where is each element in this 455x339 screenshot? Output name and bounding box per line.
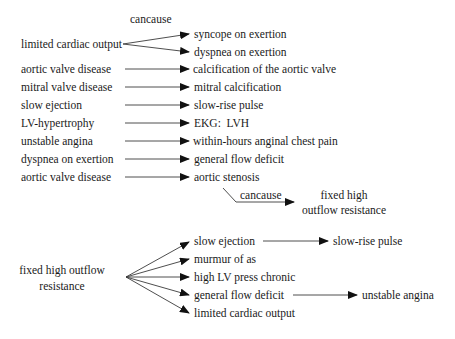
node-source-row-7: aortic valve disease: [21, 171, 111, 184]
node-fan-target-5: limited cardiac output: [194, 307, 295, 320]
node-target-row-2: mitral calcification: [194, 81, 281, 94]
node-fan-target-2: murmur of as: [194, 253, 256, 266]
node-target-row-3: slow-rise pulse: [194, 99, 263, 112]
node-syncope-on-exertion: syncope on exertion: [194, 28, 287, 41]
node-fixed-high-line2: outflow resistance: [302, 204, 386, 217]
node-source-row-5: unstable angina: [21, 135, 93, 148]
node-source-row-2: mitral valve disease: [21, 81, 112, 94]
node-fixed-high-line1: fixed high: [321, 189, 368, 202]
node-source-row-4: LV-hypertrophy: [21, 117, 94, 130]
node-source-row-3: slow ejection: [21, 99, 82, 112]
arrow-fan-4: [126, 277, 189, 295]
node-dyspnea-on-exertion: dyspnea on exertion: [194, 46, 287, 59]
arrow-fork-dyspnea: [123, 44, 189, 52]
node-target-row-5: within-hours anginal chest pain: [193, 135, 338, 148]
edge-label-cancause: cancause: [130, 13, 172, 26]
node-target-row-1: calcification of the aortic valve: [193, 63, 336, 76]
node-source-row-1: aortic valve disease: [21, 63, 111, 76]
node-fan-target-3: high LV press chronic: [194, 271, 295, 284]
node-chain-slow-rise-pulse: slow-rise pulse: [333, 235, 402, 248]
arrow-fan-5: [126, 277, 189, 313]
arrow-fork-syncope: [123, 34, 189, 44]
node-fan-source-line1: fixed high outflow: [19, 264, 105, 277]
node-aortic-stenosis: aortic stenosis: [194, 171, 259, 184]
node-target-row-4: EKG: LVH: [194, 117, 249, 130]
node-fan-target-4: general flow deficit: [194, 289, 284, 302]
node-fan-target-1: slow ejection: [194, 235, 255, 248]
node-fan-source-line2: resistance: [39, 280, 84, 293]
causal-diagram: cancause limited cardiac output syncope …: [0, 0, 455, 339]
edge-label-cancause-stenosis: cancause: [240, 189, 282, 202]
node-chain-unstable-angina: unstable angina: [362, 289, 434, 302]
node-source-row-6: dyspnea on exertion: [21, 153, 114, 166]
node-target-row-6: general flow deficit: [194, 153, 284, 166]
node-limited-cardiac-output: limited cardiac output: [21, 38, 122, 51]
arrow-fan-1: [126, 242, 189, 277]
arrow-fan-2: [126, 259, 189, 277]
